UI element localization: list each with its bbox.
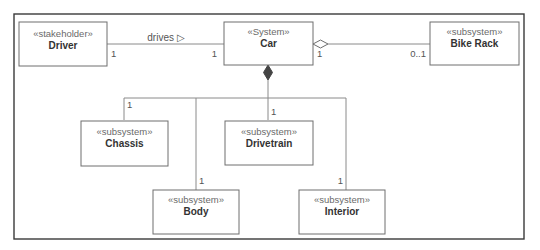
block-name: Interior <box>325 206 360 217</box>
block-name: Car <box>260 38 277 49</box>
car-aggregation-multiplicity: 1 <box>317 48 322 59</box>
block-car[interactable]: «System» Car <box>224 22 313 65</box>
bike-rack-multiplicity: 0..1 <box>410 48 426 59</box>
driver-multiplicity: 1 <box>111 48 116 59</box>
block-stereotype: «subsystem» <box>314 194 370 205</box>
chassis-multiplicity: 1 <box>127 99 132 110</box>
block-stereotype: «System» <box>247 26 289 37</box>
body-multiplicity: 1 <box>199 175 204 186</box>
block-name: Bike Rack <box>451 38 499 49</box>
block-name: Chassis <box>105 138 144 149</box>
block-interior[interactable]: «subsystem» Interior <box>299 190 385 234</box>
block-drivetrain[interactable]: «subsystem» Drivetrain <box>225 121 313 165</box>
block-name: Driver <box>49 40 78 51</box>
block-name: Body <box>184 206 209 217</box>
block-definition-diagram: drives ▷ 1 1 1 0..1 1 1 1 1 «stakeholder… <box>0 0 540 250</box>
block-stereotype: «subsystem» <box>168 194 224 205</box>
car-drives-multiplicity: 1 <box>212 48 217 59</box>
composition-diamond-icon <box>264 65 273 80</box>
aggregation-diamond-icon <box>313 40 328 48</box>
block-stereotype: «subsystem» <box>241 126 297 137</box>
interior-multiplicity: 1 <box>338 175 343 186</box>
block-stereotype: «stakeholder» <box>33 28 93 39</box>
block-body[interactable]: «subsystem» Body <box>153 190 239 234</box>
drives-association-label: drives ▷ <box>147 32 184 43</box>
block-driver[interactable]: «stakeholder» Driver <box>19 22 107 66</box>
block-stereotype: «subsystem» <box>97 126 153 137</box>
block-chassis[interactable]: «subsystem» Chassis <box>81 121 168 166</box>
block-bike-rack[interactable]: «subsystem» Bike Rack <box>430 22 519 65</box>
block-name: Drivetrain <box>246 138 293 149</box>
block-stereotype: «subsystem» <box>447 26 503 37</box>
drivetrain-multiplicity: 1 <box>271 106 276 117</box>
